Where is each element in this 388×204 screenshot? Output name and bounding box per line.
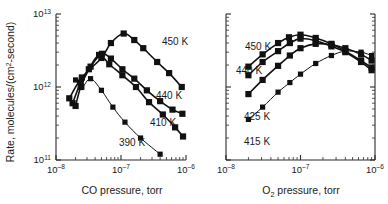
data-point-marker (275, 48, 281, 54)
data-point-marker (245, 91, 251, 97)
data-point-marker (328, 42, 334, 48)
data-point-marker (260, 77, 266, 83)
x-axis-title-o2-lead: O (262, 184, 270, 196)
x-axis-title-o2-tail: pressure, torr (274, 184, 340, 196)
data-point-marker (140, 45, 146, 51)
data-point-marker (275, 90, 280, 95)
data-point-marker (329, 53, 334, 58)
data-point-marker (121, 30, 127, 36)
data-point-marker (313, 61, 318, 66)
figure-background (0, 0, 388, 204)
data-point-marker (180, 133, 186, 139)
x-axis-title-co: CO pressure, torr (81, 184, 163, 196)
data-point-marker (297, 36, 303, 42)
series-label: 450 K (162, 36, 188, 47)
data-point-marker (260, 51, 266, 57)
data-point-marker (119, 72, 125, 78)
data-point-marker (131, 37, 137, 43)
data-point-marker (96, 52, 102, 58)
data-point-marker (88, 76, 93, 81)
data-point-marker (106, 61, 112, 67)
y-axis-title-tail: -second) (4, 22, 16, 63)
series-label: 450 K (245, 41, 271, 52)
data-point-marker (110, 105, 115, 110)
data-point-marker (343, 49, 348, 54)
data-point-marker (286, 34, 292, 40)
data-point-marker (133, 84, 139, 90)
y-axis-title-lead: Rate, molecules/(cm (4, 66, 16, 162)
series-label: 425 K (244, 111, 270, 122)
series-label: 415 K (244, 136, 270, 147)
data-point-marker (73, 77, 78, 82)
data-point-marker (287, 80, 292, 85)
data-point-marker (297, 45, 303, 51)
figure-canvas: 10–810–710–6101110121013450 K440 K410 K3… (0, 0, 388, 204)
data-point-marker (179, 111, 185, 117)
data-point-marker (169, 107, 175, 113)
data-point-marker (144, 87, 150, 93)
data-point-marker (119, 66, 125, 72)
left-x-axis-title: CO pressure, torr (81, 184, 163, 196)
data-point-marker (275, 63, 281, 69)
left-y-axis-title: Rate, molecules/(cm2-second) (4, 22, 16, 163)
data-point-marker (287, 40, 293, 46)
data-point-marker (369, 53, 374, 58)
data-point-marker (287, 52, 293, 58)
data-point-marker (368, 57, 374, 63)
data-point-marker (358, 59, 364, 65)
series-label: 440 K (156, 90, 182, 101)
data-point-marker (275, 40, 281, 46)
data-point-marker (72, 103, 78, 109)
data-point-marker (298, 72, 303, 77)
data-point-marker (368, 67, 374, 73)
series-label: 440 K (236, 65, 262, 76)
data-point-marker (146, 99, 152, 105)
data-point-marker (158, 152, 163, 157)
series-label: 390 K (119, 137, 145, 148)
data-point-marker (108, 55, 114, 61)
data-point-marker (79, 84, 84, 89)
data-point-marker (108, 40, 114, 46)
data-point-marker (131, 76, 137, 82)
dual-panel-log-log-plot: 10–810–710–6101110121013450 K440 K410 K3… (0, 0, 388, 204)
data-point-marker (166, 70, 172, 76)
svg-text:Rate, molecules/(cm2-second): Rate, molecules/(cm2-second) (4, 22, 16, 163)
data-point-marker (86, 66, 92, 72)
data-point-marker (122, 120, 127, 125)
data-point-marker (313, 41, 319, 47)
data-point-marker (260, 105, 265, 110)
series-label: 410 K (150, 117, 176, 128)
data-point-marker (358, 50, 363, 55)
data-point-marker (154, 59, 160, 65)
data-point-marker (99, 88, 104, 93)
